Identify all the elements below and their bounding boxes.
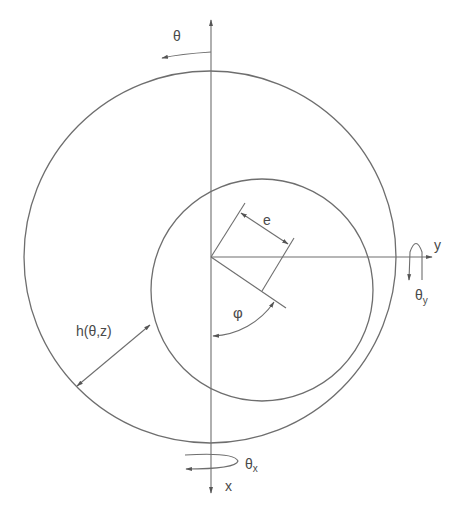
e-extension-line-2 [262,238,294,291]
theta-y-label: θy [415,287,428,306]
phi-angle-arc [213,302,274,336]
bearing-diagram: θ y θy e φ h(θ,z) θx x [0,0,461,510]
e-extension-line-1 [211,203,245,257]
eccentricity-label: e [263,212,271,228]
phi-label: φ [233,304,243,321]
y-axis-label: y [434,237,441,253]
theta-y-rotation-arrow-icon [409,244,422,281]
line-of-centers [211,257,286,308]
theta-rotation-arrow-icon [162,52,211,58]
film-thickness-label: h(θ,z) [76,323,112,339]
x-axis-label: x [225,478,232,494]
theta-label: θ [173,28,181,44]
theta-x-label: θx [245,456,258,474]
